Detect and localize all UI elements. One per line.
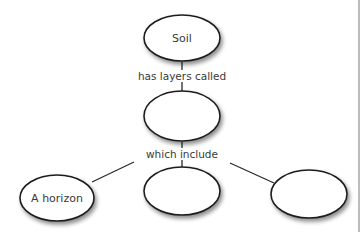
link-label-which-include: which include [146,148,218,160]
connector-label-to-a-horizon [92,162,134,182]
concept-map-canvas: Soil has layers called which include A h… [0,0,364,232]
node-blank-middle[interactable] [144,167,220,215]
node-layers-blank[interactable] [144,91,220,141]
node-label-soil: Soil [172,32,192,45]
ellipse-layers[interactable] [144,91,220,141]
node-label-a-horizon: A horizon [31,192,83,205]
node-soil: Soil [144,15,220,61]
node-blank-right[interactable] [271,170,347,218]
node-a-horizon: A horizon [20,175,94,221]
connector-label-to-right [230,163,274,183]
ellipse-blank-middle[interactable] [144,167,220,215]
link-label-has-layers-called: has layers called [138,70,226,82]
ellipse-blank-right[interactable] [271,170,347,218]
